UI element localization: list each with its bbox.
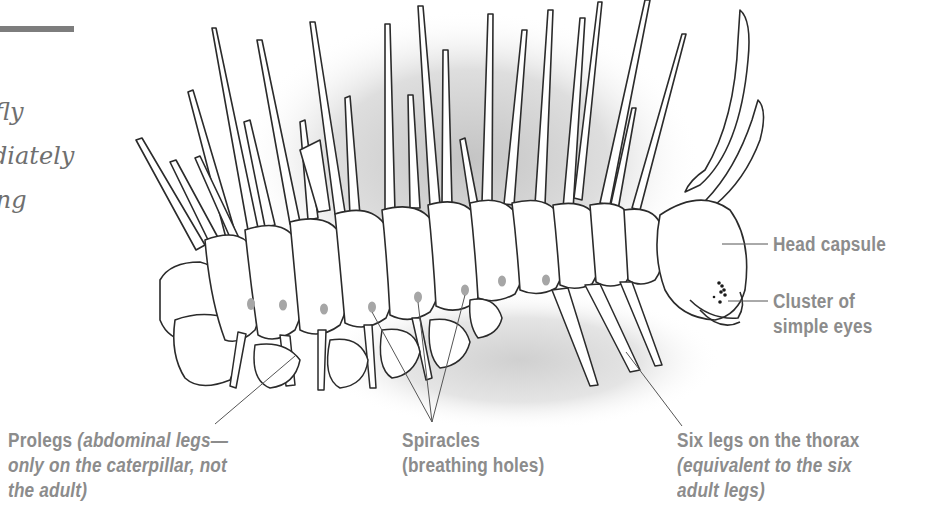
label-spiracles-subtitle: (breathing holes) — [402, 453, 544, 478]
head-capsule — [657, 200, 747, 320]
label-thorax-legs-title: Six legs on the thorax — [677, 428, 860, 453]
label-spiracles-title: Spiracles — [402, 428, 544, 453]
label-thorax-legs: Six legs on the thorax (equivalent to th… — [677, 428, 860, 503]
label-simple-eyes: Cluster of simple eyes — [773, 289, 872, 339]
label-thorax-legs-line-2: (equivalent to the six — [677, 454, 852, 476]
label-eyes-line-1: Cluster of — [773, 289, 872, 314]
label-prolegs-line-2: only on the caterpillar, not — [8, 454, 227, 476]
label-prolegs: Prolegs (abdominal legs— only on the cat… — [8, 428, 228, 503]
label-prolegs-title: Prolegs — [8, 429, 72, 451]
label-thorax-legs-line-3: adult legs) — [677, 479, 765, 501]
label-head-capsule: Head capsule — [773, 232, 886, 257]
label-eyes-line-2: simple eyes — [773, 314, 872, 339]
label-prolegs-line-1: (abdominal legs— — [77, 429, 228, 451]
proleg — [318, 330, 326, 390]
label-prolegs-line-3: the adult) — [8, 479, 87, 501]
label-spiracles: Spiracles (breathing holes) — [402, 428, 544, 478]
